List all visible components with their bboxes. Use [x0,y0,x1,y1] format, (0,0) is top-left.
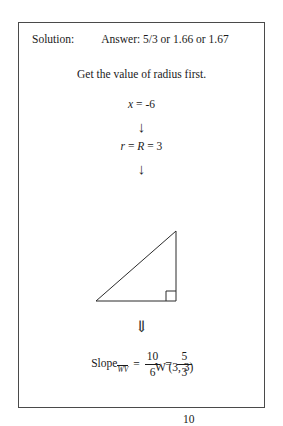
right-angle-icon [166,291,176,301]
answer-text: Answer: 5/3 or 1.66 or 1.67 [101,33,228,45]
fraction-numerator: 10 [145,350,161,364]
triangle-diagram: W (3, 3) V (-3, -7) 10 6 [19,181,266,311]
down-arrow-icon-2: ↓ [19,162,264,177]
equation-radius: r = R = 3 [19,140,264,152]
slope-equals-1: = [133,358,140,370]
solution-header: Solution: Answer: 5/3 or 1.66 or 1.67 [19,33,264,45]
slope-equals-2: = [165,358,172,370]
solution-label: Solution: [32,33,74,45]
slope-word: SlopeWV [91,357,128,372]
fraction-denominator: 6 [148,365,158,379]
solution-card: Solution: Answer: 5/3 or 1.66 or 1.67 Ge… [18,22,265,408]
slope-subscript: WV [117,365,128,374]
slope-word-text: Slope [91,357,117,369]
fraction-five-thirds: 5 3 [177,350,192,378]
down-arrow-icon-1: ↓ [19,120,264,135]
triangle-hypotenuse-line [96,231,176,301]
equation-radius-tail: = 3 [144,140,162,152]
fraction-denominator: 3 [179,365,189,379]
leg-vertical-label: 10 [183,413,195,425]
fraction-ten-sixths: 10 6 [145,350,161,378]
step-instruction: Get the value of radius first. [19,68,264,80]
equation-radius-mid: = [125,140,137,152]
double-down-arrow-icon: ⇓ [19,319,264,335]
triangle-svg [19,181,266,311]
equation-x-rest: = -6 [133,98,155,110]
fraction-numerator: 5 [179,350,189,364]
equation-x-value: x = -6 [19,98,264,110]
slope-formula: SlopeWV = 10 6 = 5 3 [19,350,264,378]
